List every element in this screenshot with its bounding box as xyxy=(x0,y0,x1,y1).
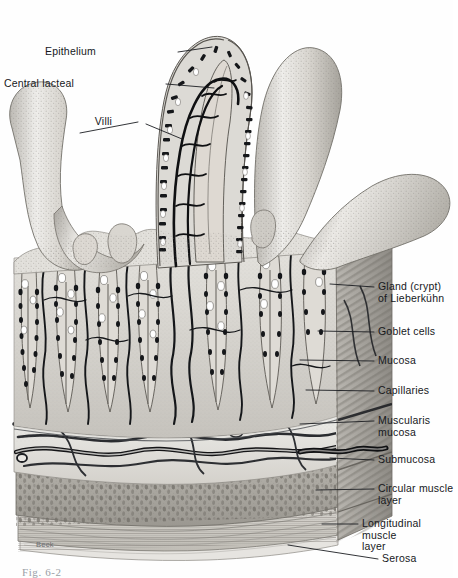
label-muscularis-mucosa: Muscularismucosa xyxy=(378,415,458,438)
villi-group xyxy=(10,36,450,274)
label-goblet-cells: Goblet cells xyxy=(378,326,435,338)
figure-caption: Fig. 6-2 xyxy=(22,566,62,578)
label-serosa: Serosa xyxy=(382,553,416,565)
label-capillaries: Capillaries xyxy=(378,385,429,397)
label-villi: Villi xyxy=(95,116,112,128)
label-mucosa: Mucosa xyxy=(378,355,416,367)
artist-signature: Beck xyxy=(36,540,54,549)
label-submucosa: Submucosa xyxy=(378,454,435,466)
label-epithelium: Epithelium xyxy=(45,46,96,58)
label-longitudinal-muscle-layer: Longitudinal musclelayer xyxy=(362,518,458,553)
label-gland-crypt-lieberkuhn: Gland (crypt)of Lieberkühn xyxy=(378,281,458,304)
label-circular-muscle-layer: Circular musclelayer xyxy=(378,483,458,506)
label-central-lacteal: Central lacteal xyxy=(4,78,74,90)
